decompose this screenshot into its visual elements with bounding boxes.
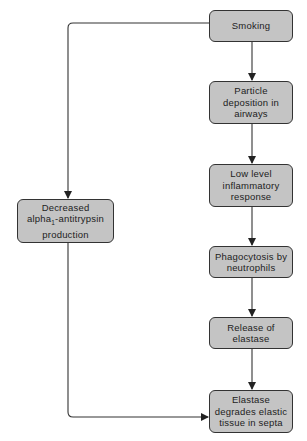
node-decreased-alpha1: Decreased alpha1-antitrypsin production <box>17 199 114 243</box>
node-label: Release of elastase <box>227 322 274 345</box>
node-label: Elastase degrades elastic tissue in sept… <box>215 394 287 429</box>
antitrypsin-text: -antitrypsin <box>55 213 104 224</box>
node-phagocytosis: Phagocytosis by neutrophils <box>209 246 293 278</box>
node-label: Smoking <box>232 20 270 32</box>
node-label-line2: alpha1-antitrypsin <box>27 213 104 228</box>
node-label-line1: Decreased <box>42 202 90 214</box>
node-smoking: Smoking <box>209 10 293 42</box>
node-particle-deposition: Particle deposition in airways <box>209 81 293 124</box>
node-elastase-degrades: Elastase degrades elastic tissue in sept… <box>209 390 293 433</box>
node-label-line3: production <box>42 229 88 241</box>
node-inflammatory-response: Low level inflammatory response <box>209 164 293 207</box>
node-label: Low level inflammatory response <box>223 168 280 203</box>
node-label: Phagocytosis by neutrophils <box>215 251 287 274</box>
node-release-elastase: Release of elastase <box>209 317 293 349</box>
alpha-text: alpha <box>27 213 51 224</box>
node-label: Particle deposition in airways <box>223 85 279 120</box>
